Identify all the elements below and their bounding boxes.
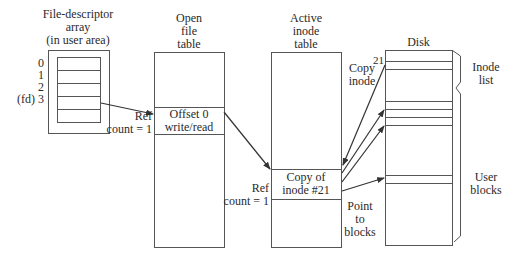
copy-inode-label: Copy inode bbox=[343, 62, 381, 88]
ait-entry-line-2: inode #21 bbox=[271, 184, 341, 197]
oft-ref-count: Ref count = 1 bbox=[100, 110, 152, 136]
inode-list-line-2: list bbox=[466, 74, 506, 87]
ait-entry: Copy of inode #21 bbox=[271, 171, 341, 197]
user-blocks-label: User blocks bbox=[464, 171, 508, 197]
point-line-3: blocks bbox=[340, 226, 380, 239]
point-block-arrow-1 bbox=[342, 110, 384, 173]
ait-ref-count: Ref count = 1 bbox=[215, 182, 269, 208]
active-inode-table-box bbox=[272, 53, 342, 248]
disk-title: Disk bbox=[385, 36, 452, 49]
point-block-arrow-2 bbox=[342, 126, 384, 182]
file-to-inode-arrow bbox=[224, 112, 270, 169]
ait-title-line-3: table bbox=[271, 38, 341, 51]
user-blocks-line-2: blocks bbox=[464, 184, 508, 197]
oft-entry-line-2: write/read bbox=[154, 121, 224, 134]
disk-box bbox=[386, 51, 453, 246]
oft-title-line-3: table bbox=[154, 38, 224, 51]
active-inode-table-title: Active inode table bbox=[271, 12, 341, 51]
open-file-table-box bbox=[155, 53, 225, 248]
inode-list-label: Inode list bbox=[466, 61, 506, 87]
fd-array-title: File-descriptor array (in user area) bbox=[28, 8, 128, 47]
point-block-arrow-3 bbox=[342, 178, 384, 191]
fd-slot-label-3: (fd) 3 bbox=[0, 93, 44, 106]
oft-ref-line-2: count = 1 bbox=[100, 123, 152, 136]
fd-title-line-3: (in user area) bbox=[28, 34, 128, 47]
point-to-blocks-label: Point to blocks bbox=[340, 200, 380, 239]
ait-ref-line-2: count = 1 bbox=[215, 195, 269, 208]
fd-slots bbox=[58, 58, 101, 123]
oft-entry: Offset 0 write/read bbox=[154, 108, 224, 134]
copy-inode-line-2: inode bbox=[343, 75, 381, 88]
region-brace bbox=[453, 51, 461, 243]
open-file-table-title: Open file table bbox=[154, 12, 224, 51]
